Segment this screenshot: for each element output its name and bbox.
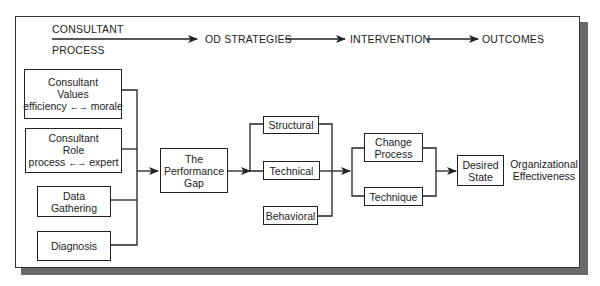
strategy-technical-box: Technical — [263, 161, 320, 180]
change-process-line2: Process — [375, 148, 413, 160]
data-gathering-line1: Data — [63, 190, 85, 202]
strategy-behavioral-box: Behavioral — [263, 206, 318, 225]
consultant-values-line2: Values — [57, 88, 88, 100]
consultant-role-continuum: process ←→ expert — [29, 156, 119, 169]
data-gathering-line2: Gathering — [51, 202, 97, 214]
technique-box: Technique — [364, 187, 423, 206]
organizational-effectiveness-label: Organizational Effectiveness — [508, 158, 580, 182]
diagnosis-box: Diagnosis — [37, 231, 111, 261]
gap-line2: Performance — [164, 165, 224, 177]
consultant-role-line2: Role — [63, 144, 85, 156]
consultant-role-line1: Consultant — [48, 132, 98, 144]
header-process: PROCESS — [52, 44, 105, 56]
header-intervention: INTERVENTION — [350, 33, 430, 45]
desired-state-line1: Desired — [462, 159, 498, 171]
consultant-values-box: Consultant Values efficiency ←→ morale — [24, 69, 122, 119]
strategy-structural-box: Structural — [263, 116, 319, 134]
data-gathering-box: Data Gathering — [37, 186, 111, 217]
bidirectional-arrow-icon: ←→ — [68, 158, 86, 168]
consultant-values-line1: Consultant — [48, 76, 98, 88]
bidirectional-arrow-icon: ←→ — [70, 102, 88, 112]
header-outcomes: OUTCOMES — [482, 33, 544, 45]
desired-state-box: Desired State — [457, 155, 504, 186]
desired-state-line2: State — [468, 171, 493, 183]
gap-line3: Gap — [184, 177, 204, 189]
performance-gap-box: The Performance Gap — [160, 148, 228, 193]
strategy-behavioral-label: Behavioral — [266, 210, 316, 222]
header-consultant: CONSULTANT — [52, 23, 124, 35]
gap-line1: The — [185, 153, 203, 165]
consultant-role-box: Consultant Role process ←→ expert — [25, 128, 122, 173]
strategy-technical-label: Technical — [270, 165, 314, 177]
strategy-structural-label: Structural — [269, 119, 314, 131]
consultant-values-continuum: efficiency ←→ morale — [23, 100, 123, 113]
change-process-box: Change Process — [364, 133, 423, 162]
diagnosis-label: Diagnosis — [51, 240, 97, 252]
change-process-line1: Change — [375, 136, 412, 148]
header-od-strategies: OD STRATEGIES — [205, 33, 292, 45]
technique-label: Technique — [370, 191, 418, 203]
